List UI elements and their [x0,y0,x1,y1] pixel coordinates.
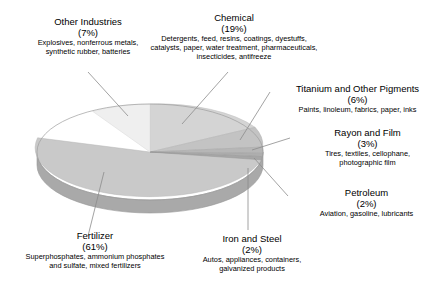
pie-label-fertilizer-percent: (61%) [0,242,190,253]
pie-label-chemical-description: Detergents, feed, resins, coatings, dyes… [142,34,326,61]
pie-chart-figure: Other Industries (7%) Explosives, nonfer… [0,0,443,298]
pie-label-rayon-description: Tires, textiles, cellophane, photographi… [292,149,443,167]
pie-label-petroleum-description: Aviation, gasoline, lubricants [290,209,443,218]
pie-label-fertilizer: Fertilizer (61%) Superphosphates, ammoni… [0,231,190,270]
pie-label-iron-steel: Iron and Steel (2%) Autos, appliances, c… [176,234,328,273]
pie-label-petroleum: Petroleum (2%) Aviation, gasoline, lubri… [290,188,443,218]
pie-label-chemical-percent: (19%) [142,24,326,35]
pie-slice-other-industries [93,104,150,152]
pie-label-petroleum-percent: (2%) [290,199,443,210]
pie-label-rayon-percent: (3%) [292,139,443,150]
pie-label-rayon: Rayon and Film (3%) Tires, textiles, cel… [292,128,443,167]
pie-label-chemical: Chemical (19%) Detergents, feed, resins,… [142,13,326,61]
pie-label-titanium-description: Paints, linoleum, fabrics, paper, inks [272,105,443,114]
pie-label-titanium-percent: (6%) [272,95,443,106]
pie-label-iron-steel-description: Autos, appliances, containers, galvanize… [176,255,328,273]
pie-label-iron-steel-percent: (2%) [176,245,328,256]
pie-label-fertilizer-description: Superphosphates, ammonium phosphates and… [0,252,190,270]
pie-label-titanium: Titanium and Other Pigments (6%) Paints,… [272,84,443,114]
